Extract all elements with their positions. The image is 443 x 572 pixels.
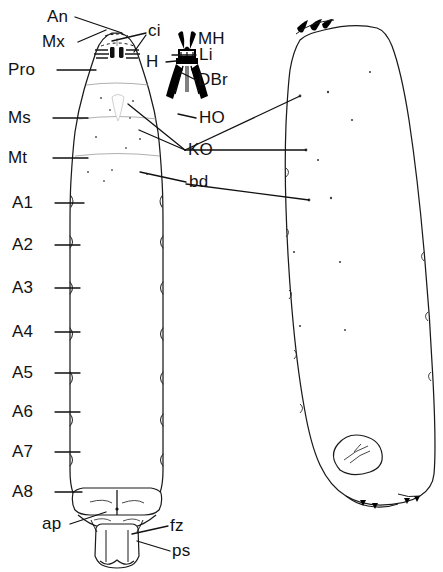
label-ho: HO: [199, 109, 225, 126]
label-dbr: DBr: [198, 71, 228, 88]
leader-ho-a: [178, 114, 196, 118]
hypostomal-bar: [176, 58, 198, 64]
label-ps: ps: [172, 542, 190, 559]
label-mt: Mt: [8, 149, 27, 166]
posterior-terminal: [72, 488, 161, 568]
label-h: H: [146, 53, 158, 70]
lateral-spiracle-plate: [333, 435, 382, 475]
antenna-right: [119, 47, 124, 58]
antenna-left: [110, 47, 115, 58]
label-ap: ap: [42, 515, 61, 532]
label-bd: bd: [189, 173, 208, 190]
leader-an: [75, 17, 122, 33]
label-a3: A3: [12, 279, 33, 296]
label-pro: Pro: [8, 61, 35, 78]
lateral-view-drawing: [283, 19, 443, 509]
leader-ps: [137, 541, 170, 551]
label-ci: ci: [148, 22, 161, 39]
mouth-hook-left: [178, 31, 184, 49]
posterior-spiracle-lobes: [95, 524, 139, 568]
label-a5: A5: [12, 364, 33, 381]
label-ms: Ms: [8, 109, 31, 126]
label-a1: A1: [12, 194, 33, 211]
mouth-hook-right: [190, 31, 196, 49]
label-a6: A6: [12, 403, 33, 420]
ventral-view-drawing: [69, 33, 166, 568]
larva-morphology-figure: An Mx ci Pro MH H Li DBr Ms HO KO Mt bd …: [0, 0, 443, 572]
label-mx: Mx: [42, 33, 65, 50]
label-li: Li: [199, 46, 213, 63]
label-an: An: [47, 8, 68, 25]
label-a8: A8: [12, 483, 33, 500]
label-a4: A4: [12, 323, 33, 340]
leader-ci-b: [134, 35, 146, 52]
label-ko: KO: [188, 141, 213, 158]
label-a2: A2: [12, 236, 33, 253]
lateral-anterior-stipple: [294, 45, 346, 59]
leader-h: [166, 61, 176, 62]
label-fz: fz: [170, 517, 184, 534]
label-a7: A7: [12, 443, 33, 460]
